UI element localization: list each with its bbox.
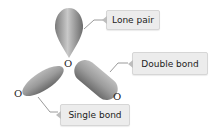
ozone-orbital-diagram: O O O Lone pair Double bond Single bond xyxy=(0,0,217,138)
lone-pair-connector xyxy=(84,20,104,29)
lone-pair-lobe xyxy=(55,8,83,58)
double-bond-label-text: Double bond xyxy=(141,59,198,69)
double-bond-connector xyxy=(110,63,128,72)
single-bond-label-text: Single bond xyxy=(68,110,121,120)
left-oxygen-atom: O xyxy=(14,89,22,99)
right-oxygen-atom: O xyxy=(113,92,121,102)
center-oxygen-atom: O xyxy=(64,59,72,69)
single-bond-connector xyxy=(38,97,58,112)
lone-pair-label: Lone pair xyxy=(106,10,160,30)
double-bond-label: Double bond xyxy=(132,52,208,75)
lone-pair-label-text: Lone pair xyxy=(112,15,154,25)
single-bond-label: Single bond xyxy=(60,104,130,126)
single-bond-lobe xyxy=(18,60,68,101)
